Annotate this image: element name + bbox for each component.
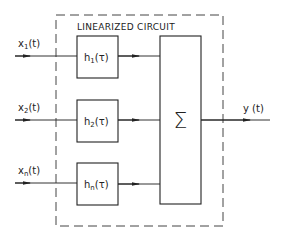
filter-to-summer-connections bbox=[118, 56, 160, 184]
sigma-symbol: Σ bbox=[174, 108, 188, 133]
filter-block-2: h2(τ) bbox=[77, 100, 118, 142]
input-2: x2(t) bbox=[15, 102, 77, 120]
filter-block-n: hn(τ) bbox=[77, 163, 118, 205]
output: y (t) bbox=[201, 103, 270, 120]
svg-text:x2(t): x2(t) bbox=[18, 102, 40, 115]
svg-text:xn(t): xn(t) bbox=[18, 165, 40, 178]
block-diagram: LINEARIZED CIRCUIT x1(t) x2(t) xn(t) h1(… bbox=[0, 0, 281, 243]
input-n: xn(t) bbox=[15, 165, 77, 183]
input-1: x1(t) bbox=[15, 38, 77, 56]
output-label: y (t) bbox=[243, 103, 264, 114]
svg-text:x1(t): x1(t) bbox=[18, 38, 40, 51]
circuit-title: LINEARIZED CIRCUIT bbox=[77, 22, 175, 32]
summer-block: Σ bbox=[160, 36, 201, 204]
filter-block-1: h1(τ) bbox=[77, 36, 118, 78]
